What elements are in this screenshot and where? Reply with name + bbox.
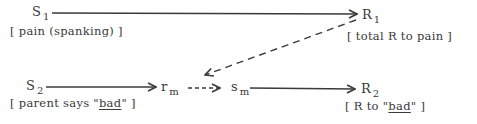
label-r2-pre: [ R to ": [345, 99, 388, 113]
edge-s1-r1: [52, 13, 357, 14]
label-s2-pre: [ parent says ": [10, 96, 99, 110]
node-r1-symbol: R: [362, 7, 372, 22]
label-s1-text: [ pain (spanking) ]: [10, 24, 123, 38]
label-r2-underlined: bad: [388, 99, 410, 113]
node-sm-sub: m: [240, 86, 249, 97]
edge-sm-r2: [250, 88, 355, 89]
node-s1: S1: [32, 5, 49, 18]
label-s2-post: " ]: [121, 96, 135, 110]
node-sm-symbol: s: [231, 79, 238, 94]
node-r1: R1: [362, 8, 380, 21]
node-rm-sub: m: [169, 86, 178, 97]
node-r2: R2: [361, 82, 379, 95]
label-s2: [ parent says "bad" ]: [10, 98, 136, 110]
node-r1-sub: 1: [374, 14, 380, 25]
node-r2-sub: 2: [373, 88, 379, 99]
label-r2-post: " ]: [411, 99, 425, 113]
node-sm: sm: [231, 80, 249, 93]
label-r1: [ total R to pain ]: [347, 31, 452, 43]
node-s2: S2: [26, 79, 43, 92]
edge-r1-rm: [205, 20, 356, 75]
label-s1: [ pain (spanking) ]: [10, 26, 123, 38]
node-rm-symbol: r: [161, 79, 167, 94]
node-s1-symbol: S: [32, 4, 41, 19]
node-r2-symbol: R: [361, 81, 371, 96]
label-r2: [ R to "bad" ]: [345, 101, 425, 113]
node-s1-sub: 1: [43, 11, 49, 22]
node-s2-sub: 2: [37, 85, 43, 96]
node-rm: rm: [161, 80, 179, 93]
node-s2-symbol: S: [26, 78, 35, 93]
label-s2-underlined: bad: [99, 96, 121, 110]
label-r1-text: [ total R to pain ]: [347, 29, 452, 43]
